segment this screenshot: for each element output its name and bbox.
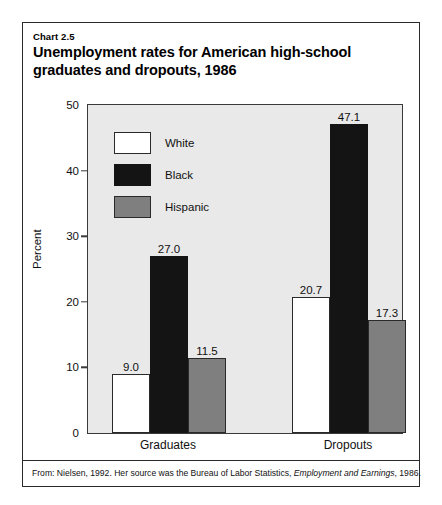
bar-dropouts-white: 20.7 [292,297,330,433]
bar-graduates-hispanic: 11.5 [188,358,226,433]
legend-swatch-icon [114,132,151,154]
y-tick-mark [81,235,88,236]
plot-inner: 0 10 20 30 40 50 [88,105,402,433]
y-tick-mark [81,301,88,302]
chart-number: Chart 2.5 [33,30,409,43]
bar-value-label: 47.1 [338,111,360,123]
source-suffix: , 1986. [395,468,421,478]
y-tick-label: 10 [66,361,79,373]
chart-figure: Chart 2.5 Unemployment rates for America… [22,22,420,487]
y-tick-label: 40 [66,165,79,177]
legend-swatch-icon [114,196,151,218]
bar-value-label: 27.0 [158,243,180,255]
bar-value-label: 9.0 [123,361,139,373]
x-tick-label-graduates: Graduates [140,438,196,452]
x-tick-label-dropouts: Dropouts [324,438,373,452]
figure-header: Chart 2.5 Unemployment rates for America… [33,30,409,79]
plot-area: 0 10 20 30 40 50 [87,104,403,434]
bar-dropouts-hispanic: 17.3 [368,320,406,433]
y-axis-label: Percent [31,229,43,269]
y-tick-label: 20 [66,296,79,308]
legend: White Black Hispanic [114,127,209,223]
y-tick-label: 50 [66,99,79,111]
legend-swatch-icon [114,164,151,186]
bar-value-label: 17.3 [376,307,398,319]
legend-item-hispanic: Hispanic [114,191,209,223]
source-prefix: From: Nielsen, 1992. Her source was the … [32,468,294,478]
y-tick-label: 0 [73,427,79,439]
y-tick-label: 30 [66,230,79,242]
source-publication: Employment and Earnings [294,468,395,478]
legend-item-black: Black [114,159,209,191]
bar-graduates-white: 9.0 [112,374,150,433]
y-tick-mark [81,170,88,171]
legend-label: Black [165,169,193,181]
bar-dropouts-black: 47.1 [330,124,368,433]
bar-graduates-black: 27.0 [150,256,188,433]
y-tick-mark [81,367,88,368]
footer-divider [23,460,419,461]
legend-label: Hispanic [165,201,209,213]
page-title: Unemployment rates for American high-sch… [33,44,409,79]
legend-label: White [165,137,194,149]
legend-item-white: White [114,127,209,159]
bar-value-label: 20.7 [300,284,322,296]
bar-value-label: 11.5 [196,345,218,357]
source-note: From: Nielsen, 1992. Her source was the … [32,467,410,479]
